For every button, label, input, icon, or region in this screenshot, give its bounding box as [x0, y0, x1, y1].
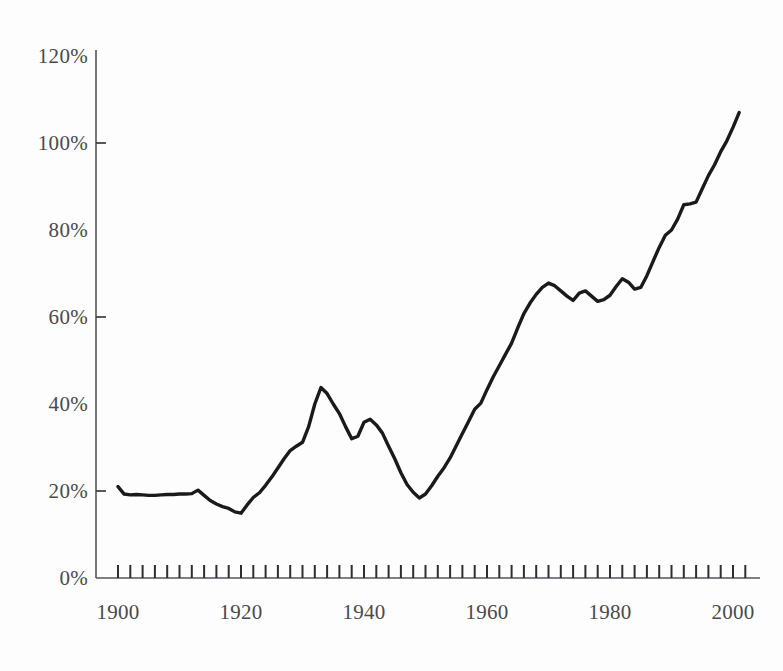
y-tick-label-80: 80%: [4, 218, 88, 243]
y-tick-label-60: 60%: [4, 305, 88, 330]
axis-lines: [96, 50, 760, 578]
x-tick-label-2000: 2000: [688, 600, 778, 625]
x-tick-label-1980: 1980: [565, 600, 655, 625]
y-axis-ticks: [96, 143, 106, 491]
y-tick-label-20: 20%: [4, 479, 88, 504]
data-series-line: [118, 113, 739, 514]
x-tick-label-1900: 1900: [73, 600, 163, 625]
x-tick-label-1920: 1920: [196, 600, 286, 625]
x-tick-label-1960: 1960: [442, 600, 532, 625]
x-axis-ticks: [118, 565, 745, 578]
y-tick-label-0: 0%: [4, 566, 88, 591]
line-chart-plot: [0, 0, 783, 671]
y-tick-label-120: 120%: [4, 44, 88, 69]
chart-figure: 120% 100% 80% 60% 40% 20% 0% 1900 1920 1…: [0, 0, 783, 671]
x-tick-label-1940: 1940: [319, 600, 409, 625]
y-tick-label-40: 40%: [4, 392, 88, 417]
y-tick-label-100: 100%: [4, 131, 88, 156]
